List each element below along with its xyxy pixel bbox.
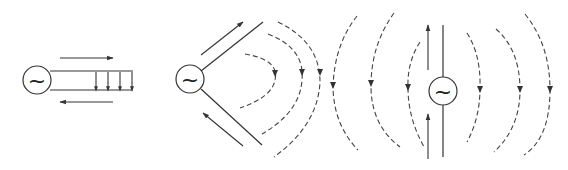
panel-transmission-line: ~: [23, 58, 133, 102]
upper-wire: [201, 22, 263, 71]
field-line-right-outer: [524, 14, 550, 155]
tilde-glyph: ~: [28, 68, 46, 93]
panel-flaring-line: ~: [176, 22, 323, 157]
field-line-left-middle: [371, 13, 400, 147]
current-arrow-up-right: [201, 22, 243, 55]
panel-dipole-radiation: ~: [330, 13, 553, 159]
current-arrow-up-left: [203, 113, 243, 146]
tilde-glyph: ~: [181, 67, 199, 92]
field-arrows: [96, 72, 132, 89]
field-line-right-middle: [494, 29, 520, 152]
field-line-outer: [274, 22, 320, 157]
field-line-left-outer: [333, 16, 358, 150]
field-line-middle: [262, 34, 302, 134]
field-line-left-inner: [408, 42, 424, 147]
tilde-glyph: ~: [434, 79, 452, 104]
antenna-evolution-diagram: ~ ~ ~: [0, 0, 568, 170]
field-line-inner: [240, 54, 276, 108]
